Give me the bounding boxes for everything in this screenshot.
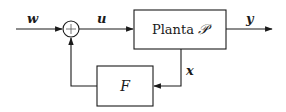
feedback-label: F	[119, 78, 131, 94]
state-signal-line	[154, 49, 181, 86]
feedback-block: F	[97, 66, 153, 106]
plant-label: Planta	[152, 22, 198, 37]
block-diagram: w u Planta 𝒫 y x F	[0, 0, 286, 112]
summing-junction	[63, 21, 79, 37]
output-label-y: y	[245, 11, 255, 26]
plant-block: Planta 𝒫	[134, 10, 226, 49]
input-label-w: w	[27, 11, 39, 26]
control-label-u: u	[97, 11, 106, 26]
state-label-x: x	[185, 63, 194, 78]
svg-text:Planta 𝒫: Planta 𝒫	[152, 21, 212, 37]
feedback-return-line	[71, 38, 97, 86]
